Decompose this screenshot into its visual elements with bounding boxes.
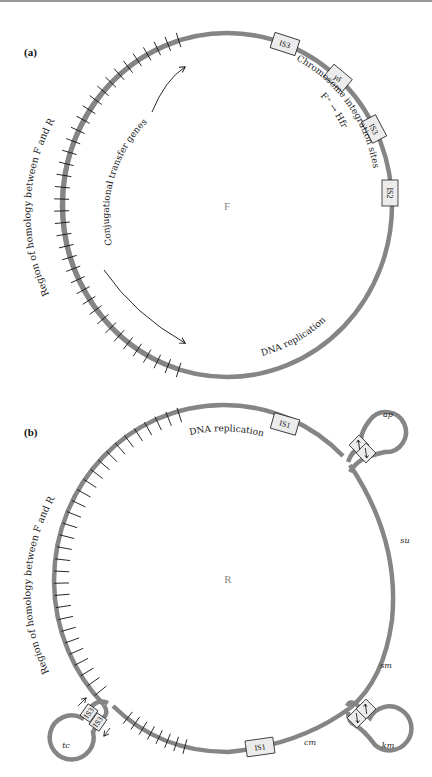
homology-ticks-b [54,408,182,696]
homology-region-strand [63,41,178,369]
transfer-genes-label: Conjugational transfer genes [101,116,149,246]
su-gene-label: su [400,536,409,545]
r-plasmid-strand-upper [54,405,343,705]
is1-element-bottom: IS1 [245,737,275,757]
svg-text:IS1: IS1 [254,742,266,752]
homology-ticks-b-lower [123,712,187,754]
homology-ticks [54,33,181,377]
is2-element: IS2 [382,180,398,206]
panel-b: (b) ap km [21,405,411,760]
dna-replication-label-b: DNA replication [188,423,265,438]
tc-arrow-down [104,728,110,736]
transfer-arrow-up [152,67,185,112]
sm-gene-label: sm [380,661,392,670]
cm-gene-label: cm [304,738,316,747]
is1-element-top: IS1 [270,413,299,436]
tc-arrow-up [78,698,86,706]
panel-a-label: (a) [24,46,37,59]
svg-text:IS2: IS2 [385,187,394,198]
plasmid-name-r: R [224,573,232,585]
tc-gene-label: tc [62,741,70,750]
is3-element-1: IS3 [270,32,300,55]
km-gene-label: km [382,741,395,750]
ap-gene-label: ap [383,410,393,419]
panel-b-label: (b) [24,426,38,439]
plasmid-diagram: (a) IS3 γδ IS3 IS2 Region of homology be… [0,0,432,777]
homology-label-b: Region of homology between F and R [21,493,56,676]
homology-label-a: Region of homology between F and R [21,115,56,298]
r-plasmid-strand-right [350,465,393,708]
plasmid-name-f: F [224,200,230,212]
panel-a: (a) IS3 γδ IS3 IS2 Region of homology be… [21,32,398,377]
